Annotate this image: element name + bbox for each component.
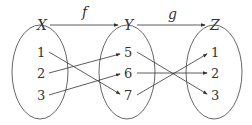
function-composition-diagram: X Y Z f g 1 2 3 5 6 7 1 2 3 (0, 0, 252, 125)
set-x-label: X (36, 17, 48, 33)
z-element: 2 (211, 66, 219, 81)
function-g-label: g (168, 6, 177, 22)
x-element: 1 (37, 45, 45, 60)
y-element: 5 (124, 45, 132, 60)
z-element: 1 (211, 45, 219, 60)
x-element: 2 (37, 66, 45, 81)
y-element: 6 (124, 66, 132, 81)
f-1-to-7 (49, 52, 120, 94)
set-z-label: Z (209, 17, 220, 33)
function-f-label: f (81, 4, 90, 20)
y-element: 7 (124, 88, 132, 103)
f-3-to-6 (49, 74, 120, 95)
f-2-to-5 (49, 54, 120, 73)
z-element: 3 (211, 88, 219, 103)
set-y-label: Y (124, 17, 135, 33)
x-element: 3 (37, 88, 45, 103)
g-7-to-1 (137, 54, 207, 95)
